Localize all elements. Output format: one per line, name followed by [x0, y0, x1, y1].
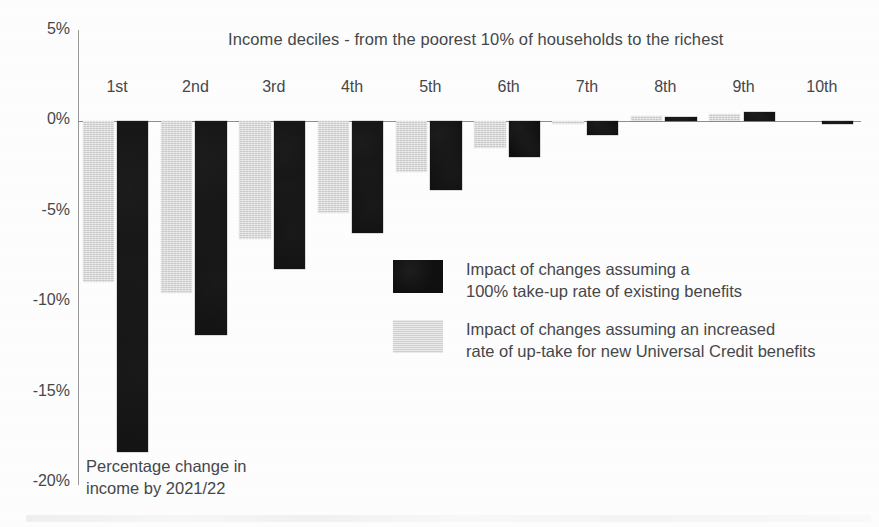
bar-10th-dark — [822, 121, 853, 124]
legend-label-light: Impact of changes assuming an increased … — [466, 318, 815, 362]
chart-legend: Impact of changes assuming a 100% take-u… — [393, 258, 823, 378]
bar-9th-light — [709, 114, 740, 121]
legend-swatch-light — [393, 320, 443, 353]
bar-6th-dark — [509, 121, 540, 157]
scan-smudge-strip — [26, 515, 871, 522]
bar-8th-light — [631, 116, 662, 121]
bar-2nd-dark — [195, 121, 226, 335]
bar-1st-dark — [117, 121, 148, 452]
bar-7th-light — [552, 121, 583, 124]
bar-3rd-dark — [274, 121, 305, 269]
bar-9th-dark — [744, 112, 775, 121]
y-tick-neg5: -5% — [0, 201, 70, 219]
bar-5th-light — [396, 121, 427, 172]
y-tick-neg20: -20% — [0, 472, 70, 490]
bar-5th-dark — [430, 121, 461, 190]
legend-item-dark: Impact of changes assuming a 100% take-u… — [393, 258, 823, 302]
legend-swatch-dark — [393, 260, 443, 293]
legend-label-dark: Impact of changes assuming a 100% take-u… — [466, 258, 742, 302]
y-axis-caption: Percentage change in income by 2021/22 — [86, 455, 247, 499]
y-tick-neg10: -10% — [0, 291, 70, 309]
y-tick-5: 5% — [0, 20, 70, 38]
y-tick-neg15: -15% — [0, 382, 70, 400]
bar-4th-dark — [352, 121, 383, 233]
bar-6th-light — [474, 121, 505, 148]
bar-7th-dark — [587, 121, 618, 135]
y-tick-0: 0% — [0, 110, 70, 128]
bar-1st-light — [83, 121, 114, 282]
bar-2nd-light — [161, 121, 192, 293]
income-deciles-bar-chart: Income deciles - from the poorest 10% of… — [0, 0, 879, 527]
bar-4th-light — [318, 121, 349, 213]
legend-item-light: Impact of changes assuming an increased … — [393, 318, 823, 362]
bar-8th-dark — [665, 117, 696, 121]
bar-3rd-light — [239, 121, 270, 239]
